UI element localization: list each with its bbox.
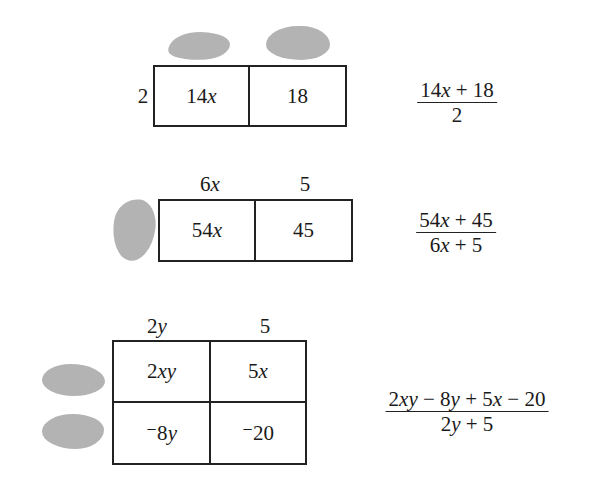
cell-text: 18 <box>287 84 308 109</box>
cell-1-2: 18 <box>250 67 345 125</box>
hidden-left-label-blob <box>109 196 159 263</box>
fraction-expression: 54x + 45 6x + 5 <box>416 208 496 257</box>
fraction-expression: 14x + 18 2 <box>417 78 497 127</box>
cell-text: 2xy <box>147 359 176 384</box>
top-label-1: 2y <box>147 314 167 339</box>
fraction-expression: 2xy − 8y + 5x − 20 2y + 5 <box>386 387 549 436</box>
cell-text: ⁻20 <box>242 421 274 446</box>
cell-1-1: 2xy <box>114 342 209 401</box>
hidden-top-label-1-blob <box>167 30 231 62</box>
hidden-left-label-1-blob <box>42 364 105 396</box>
top-label-2: 5 <box>260 314 271 339</box>
hidden-top-label-2-blob <box>266 26 330 60</box>
denominator: 6x + 5 <box>430 233 483 257</box>
top-label-1: 6x <box>200 172 220 197</box>
denominator: 2y + 5 <box>441 412 494 436</box>
top-label-2: 5 <box>300 172 311 197</box>
cell-2-2: ⁻20 <box>211 403 305 463</box>
cell-1-2: 45 <box>256 201 351 260</box>
cell-text: 45 <box>293 218 314 243</box>
cell-1-1: 54x <box>160 201 254 260</box>
left-label: 2 <box>138 84 149 109</box>
numerator: 2xy − 8y + 5x − 20 <box>386 387 549 412</box>
numerator: 14x + 18 <box>417 78 497 103</box>
hidden-left-label-2-blob <box>42 414 104 449</box>
cell-1-2: 5x <box>211 342 305 401</box>
cell-1-1: 14x <box>155 67 248 125</box>
cell-text: 54x <box>192 218 222 243</box>
cell-text: 14x <box>186 84 216 109</box>
cell-2-1: ⁻8y <box>114 403 209 463</box>
cell-text: ⁻8y <box>146 421 177 446</box>
cell-text: 5x <box>248 359 268 384</box>
denominator: 2 <box>452 103 463 127</box>
numerator: 54x + 45 <box>416 208 496 233</box>
